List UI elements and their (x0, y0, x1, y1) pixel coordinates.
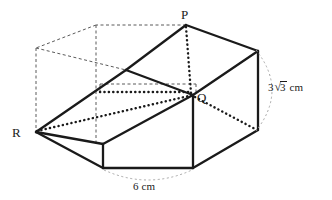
dimension-arcs-group (104, 50, 272, 180)
hidden-edge-R-to-Q (37, 95, 193, 131)
vertex-label-P: P (181, 8, 188, 21)
height-radicand: 3 (280, 81, 287, 93)
dimension-label-height: 3√3cm (268, 81, 303, 93)
vertex-label-Q: Q (197, 91, 206, 104)
visible-edges-group (36, 25, 258, 168)
hidden-edge-P-vertical-to-Q (186, 27, 191, 93)
dimension-arc-width (104, 170, 192, 180)
height-unit: cm (290, 81, 303, 93)
edge-bottom-left-to-Q (103, 95, 193, 144)
width-unit: cm (142, 180, 155, 192)
edge-right-bottom-slant (193, 130, 258, 168)
figure-canvas (0, 0, 332, 200)
hidden-edges-group (36, 25, 196, 144)
edge-top-right-to-Q (193, 51, 258, 95)
edge-left-fold-to-R (36, 70, 126, 132)
width-coefficient: 6 (133, 180, 139, 192)
geometry-figure: P Q R 3√3cm 6cm (0, 0, 332, 200)
dimension-label-width: 6cm (133, 181, 155, 192)
vertex-label-R: R (12, 126, 21, 139)
height-radical: √3 (274, 81, 287, 93)
hidden-edge-back-top-to-mid-diagonal (36, 48, 126, 70)
edge-P-to-top-right (186, 25, 258, 51)
hidden-edge-top-back-diagonal (36, 25, 96, 48)
edge-P-to-left-fold (126, 25, 186, 70)
